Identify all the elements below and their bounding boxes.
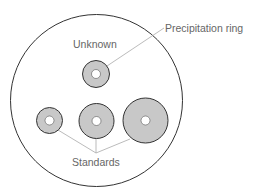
standard-small-well — [45, 116, 54, 125]
unknown-label: Unknown — [73, 38, 117, 50]
standard-medium-well — [92, 117, 101, 126]
precipitation-ring-label: Precipitation ring — [165, 22, 243, 34]
immunodiffusion-diagram: Precipitation ring Unknown Standards — [0, 0, 256, 193]
standard-large-well — [141, 116, 150, 125]
unknown-well — [92, 70, 101, 79]
standards-label: Standards — [72, 156, 120, 168]
unknown-sample — [83, 61, 110, 88]
